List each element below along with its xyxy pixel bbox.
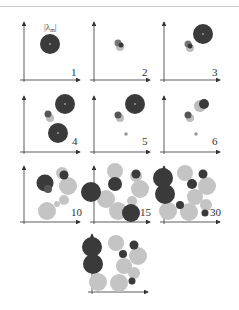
panel-final xyxy=(82,234,148,294)
panel-6: 6 xyxy=(160,96,220,154)
panel-4: 4 xyxy=(20,94,80,154)
panel-label: 4 xyxy=(72,135,78,147)
panel-label: 6 xyxy=(212,135,218,147)
panel-label: 30 xyxy=(210,206,222,218)
panel-label: 10 xyxy=(71,206,83,218)
panel-label: 2 xyxy=(142,66,148,78)
panel-10: 10 xyxy=(20,166,83,224)
panel-label: 5 xyxy=(142,135,148,147)
panel-label: 15 xyxy=(140,206,152,218)
figure-canvas: |λm| 1 2 3 4 xyxy=(0,0,239,310)
panel-2: 2 xyxy=(90,22,150,82)
panel-5: 5 xyxy=(90,94,150,154)
panel-label: 3 xyxy=(212,66,218,78)
panel-label: 1 xyxy=(71,66,77,78)
panel-15: 15 xyxy=(81,163,152,224)
panel-1: |λm| 1 xyxy=(20,22,80,82)
lambda-label: |λm| xyxy=(44,22,57,33)
panel-3: 3 xyxy=(160,22,220,82)
panel-30: 30 xyxy=(153,165,222,224)
